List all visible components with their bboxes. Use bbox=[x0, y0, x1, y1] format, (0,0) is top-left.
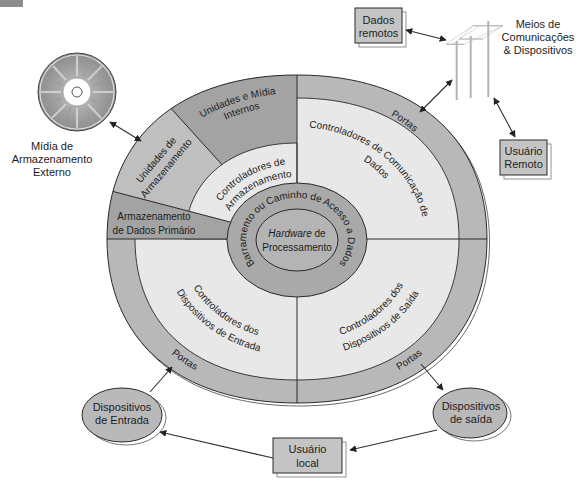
corner-marker bbox=[0, 0, 23, 7]
output-devices-label-line1: Dispositivos bbox=[442, 400, 501, 412]
comm-media-label-line1: Meios de bbox=[516, 18, 561, 30]
comm-media-label-line3: & Dispositivos bbox=[503, 44, 573, 56]
remote-data-label-line1: Dados bbox=[363, 14, 395, 26]
double-arrow-comm-remote-user bbox=[494, 98, 515, 137]
remote-user-node: Usuário Remoto bbox=[500, 140, 551, 179]
output-devices-node: Dispositivos de saída bbox=[433, 388, 511, 441]
remote-data-label-line2: remotos bbox=[359, 27, 399, 39]
arrow-local-user-to-input bbox=[160, 432, 273, 458]
arrow-output-to-local-user bbox=[350, 430, 437, 450]
external-media-label-line1: Mídia de bbox=[31, 140, 73, 152]
remote-user-label-line1: Usuário bbox=[505, 145, 543, 157]
external-media-label-line2: Armazenamento bbox=[12, 153, 93, 165]
arrow-input-to-ports bbox=[150, 367, 172, 392]
telephone-pole-icon bbox=[446, 21, 503, 100]
core-label-line1: Hardware de bbox=[268, 228, 326, 239]
cd-disc-icon bbox=[38, 53, 116, 131]
primary-storage-label-line2: de Dados Primário bbox=[113, 225, 196, 236]
input-devices-label-line2: de Entrada bbox=[95, 414, 150, 426]
external-media-node: Mídia de Armazenamento Externo bbox=[12, 53, 116, 178]
primary-storage-label-line1: Armazenamento bbox=[117, 211, 191, 222]
comm-media-label-line2: Comunicações bbox=[502, 31, 575, 43]
external-media-label-line3: Externo bbox=[33, 166, 71, 178]
diagram-canvas: Hardware de Processamento Barramento ou … bbox=[0, 0, 582, 489]
input-devices-node: Dispositivos de Entrada bbox=[82, 388, 166, 445]
double-arrow-ports-comm bbox=[420, 80, 452, 112]
local-user-node: Usuário local bbox=[273, 438, 346, 477]
input-devices-label-line1: Dispositivos bbox=[93, 401, 152, 413]
communication-media-node: Meios de Comunicações & Dispositivos bbox=[446, 18, 575, 100]
local-user-label-line1: Usuário bbox=[289, 443, 327, 455]
system-diagram: Hardware de Processamento Barramento ou … bbox=[60, 40, 495, 410]
remote-data-node: Dados remotos bbox=[355, 8, 406, 47]
core-label-line2: Processamento bbox=[262, 242, 332, 253]
double-arrow-media-drives bbox=[110, 122, 141, 141]
output-devices-label-line2: de saída bbox=[450, 413, 493, 425]
local-user-label-line2: local bbox=[296, 457, 319, 469]
processing-core bbox=[256, 209, 338, 271]
computer-system-diagram: Hardware de Processamento Barramento ou … bbox=[0, 0, 582, 489]
double-arrow-remote-data bbox=[406, 30, 446, 40]
remote-user-label-line2: Remoto bbox=[504, 158, 543, 170]
